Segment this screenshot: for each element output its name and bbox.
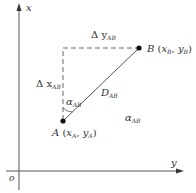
y-axis-label: y (171, 158, 177, 168)
y-axis-arrow-icon (176, 169, 184, 174)
point-b (136, 45, 141, 50)
point-a (60, 118, 65, 123)
angle-alpha-near-label: αAB (66, 97, 82, 108)
coordinate-azimuth-diagram: x y o Δ yAB Δ xAB αAB DAB αAB A (xA, yA)… (0, 0, 196, 193)
angle-arc (63, 108, 73, 112)
point-b-label: B (xB, yB) (147, 44, 192, 55)
delta-x-label: Δ xAB (36, 79, 61, 90)
point-a-label: A (xA, yA) (52, 128, 97, 139)
segment-ab (63, 48, 139, 121)
x-axis-arrow-icon (17, 3, 22, 11)
distance-label: DAB (101, 88, 118, 99)
delta-y-label: Δ yAB (91, 30, 116, 41)
origin-label: o (9, 174, 14, 183)
x-axis-label: x (26, 3, 32, 13)
angle-alpha-far-label: αAB (125, 113, 141, 124)
